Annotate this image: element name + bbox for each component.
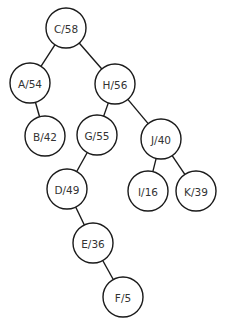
- tree-node-i: I/16: [128, 171, 168, 211]
- node-label: F/5: [115, 292, 131, 304]
- node-label: A/54: [18, 78, 42, 90]
- tree-node-h: H/56: [95, 64, 135, 104]
- edge-c-h: [79, 43, 102, 69]
- nodes-layer: C/58A/54H/56B/42G/55J/40D/49I/16K/39E/36…: [10, 8, 216, 317]
- tree-node-b: B/42: [25, 116, 65, 156]
- node-label: J/40: [150, 134, 171, 146]
- tree-node-f: F/5: [103, 277, 143, 317]
- edge-j-i: [153, 158, 156, 171]
- tree-diagram: C/58A/54H/56B/42G/55J/40D/49I/16K/39E/36…: [0, 0, 225, 326]
- tree-node-d: D/49: [47, 169, 87, 209]
- node-label: K/39: [184, 186, 208, 198]
- edge-g-d: [77, 152, 88, 171]
- tree-node-e: E/36: [73, 223, 113, 263]
- node-label: I/16: [138, 186, 158, 198]
- tree-node-j: J/40: [141, 119, 181, 159]
- node-label: E/36: [81, 238, 105, 250]
- node-label: D/49: [55, 184, 80, 196]
- edge-h-g: [104, 103, 109, 116]
- edge-h-j: [128, 99, 148, 123]
- node-label: H/56: [103, 79, 128, 91]
- tree-node-g: G/55: [77, 115, 117, 155]
- tree-node-c: C/58: [46, 8, 86, 48]
- edge-d-e: [76, 207, 85, 225]
- edge-c-a: [41, 45, 55, 67]
- edge-j-k: [172, 156, 185, 175]
- tree-node-a: A/54: [10, 63, 50, 103]
- node-label: C/58: [54, 23, 78, 35]
- edge-a-b: [35, 102, 39, 117]
- node-label: G/55: [84, 130, 109, 142]
- edge-e-f: [103, 260, 114, 279]
- node-label: B/42: [33, 131, 57, 143]
- tree-node-k: K/39: [176, 171, 216, 211]
